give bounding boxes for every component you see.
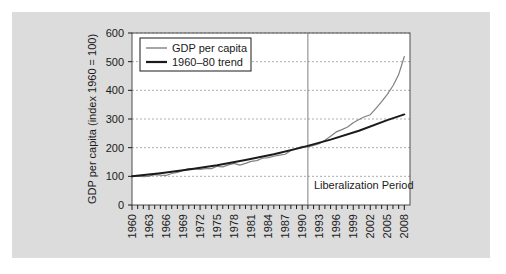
- y-tick-label-600: 600: [106, 27, 124, 39]
- x-tick-label-1966: 1966: [160, 214, 172, 238]
- x-tick-label-1969: 1969: [177, 214, 189, 238]
- x-tick-label-1996: 1996: [330, 214, 342, 238]
- x-tick-label-2005: 2005: [381, 214, 393, 238]
- x-axis: 1960196319661969197219751978198119841987…: [126, 205, 410, 238]
- x-tick-label-1984: 1984: [262, 214, 274, 238]
- legend-label-trend: 1960–80 trend: [172, 56, 243, 68]
- figure-root: 0100200300400500600 19601963196619691972…: [0, 0, 506, 274]
- x-tick-label-1972: 1972: [194, 214, 206, 238]
- y-tick-label-0: 0: [118, 199, 124, 211]
- x-tick-label-1975: 1975: [211, 214, 223, 238]
- y-tick-label-100: 100: [106, 170, 124, 182]
- y-tick-label-300: 300: [106, 113, 124, 125]
- y-axis-title: GDP per capita (index 1960 = 100): [86, 34, 98, 204]
- y-axis: 0100200300400500600: [106, 27, 132, 211]
- x-tick-label-1987: 1987: [279, 214, 291, 238]
- x-tick-label-1999: 1999: [347, 214, 359, 238]
- y-tick-label-400: 400: [106, 84, 124, 96]
- x-tick-label-1993: 1993: [313, 214, 325, 238]
- x-tick-label-1963: 1963: [143, 214, 155, 238]
- liberalization-period-label: Liberalization Period: [314, 179, 414, 191]
- x-tick-label-2002: 2002: [364, 214, 376, 238]
- gdp-per-capita-line-chart: 0100200300400500600 19601963196619691972…: [0, 0, 506, 274]
- y-tick-label-500: 500: [106, 56, 124, 68]
- chart-legend: GDP per capita 1960–80 trend: [140, 38, 251, 71]
- x-tick-label-1990: 1990: [296, 214, 308, 238]
- legend-label-gdp-per-capita: GDP per capita: [172, 42, 248, 54]
- x-tick-label-1978: 1978: [228, 214, 240, 238]
- x-tick-label-1960: 1960: [126, 214, 138, 238]
- x-tick-label-1981: 1981: [245, 214, 257, 238]
- y-tick-label-200: 200: [106, 142, 124, 154]
- x-tick-label-2008: 2008: [398, 214, 410, 238]
